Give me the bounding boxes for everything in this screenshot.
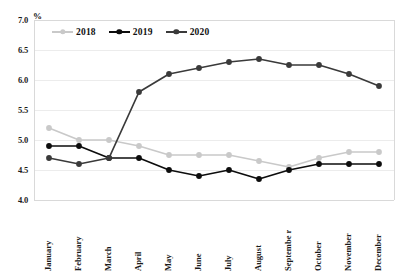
- data-point: [286, 167, 292, 173]
- legend-marker-icon: [60, 29, 65, 34]
- y-axis-tick-label: 4.0: [2, 195, 28, 205]
- y-axis-tick-label: 5.0: [2, 135, 28, 145]
- y-axis-tick-label: 6.5: [2, 45, 28, 55]
- x-axis-tick-label: December: [374, 205, 383, 271]
- legend-label: 2020: [190, 27, 210, 37]
- legend-item-2018[interactable]: 2018: [52, 27, 96, 37]
- data-point: [166, 167, 172, 173]
- legend-swatch-icon: [109, 31, 130, 33]
- data-point: [196, 152, 202, 158]
- legend-item-2019[interactable]: 2019: [109, 27, 153, 37]
- data-point: [46, 155, 52, 161]
- legend-label: 2018: [76, 27, 96, 37]
- x-axis-tick-label: February: [74, 205, 83, 271]
- legend-item-2020[interactable]: 2020: [166, 27, 210, 37]
- line-chart: % 7.06.56.05.55.04.54.0 JanuaryFebruaryM…: [0, 0, 406, 275]
- x-axis-tick-label: April: [134, 205, 143, 271]
- x-axis-tick-label: May: [164, 205, 173, 271]
- data-point: [256, 176, 262, 182]
- y-axis-tick-label: 4.5: [2, 165, 28, 175]
- data-point: [166, 152, 172, 158]
- x-axis-tick-label: March: [104, 205, 113, 271]
- data-point: [316, 62, 322, 68]
- x-axis-tick-label: July: [224, 205, 233, 271]
- data-point: [136, 89, 142, 95]
- data-point: [376, 149, 382, 155]
- x-axis-tick-label: Septembe r: [284, 205, 293, 271]
- data-point: [136, 143, 142, 149]
- x-axis-tick-label: October: [314, 205, 323, 271]
- data-point: [226, 59, 232, 65]
- data-point: [226, 152, 232, 158]
- chart-legend: 201820192020: [52, 27, 209, 37]
- data-point: [106, 137, 112, 143]
- data-point: [166, 71, 172, 77]
- data-point: [346, 149, 352, 155]
- data-point: [376, 161, 382, 167]
- data-point: [316, 161, 322, 167]
- data-point: [196, 65, 202, 71]
- data-point: [46, 143, 52, 149]
- data-point: [376, 83, 382, 89]
- legend-swatch-icon: [166, 31, 187, 33]
- y-axis-tick-label: 5.5: [2, 105, 28, 115]
- y-axis-tick-label: 7.0: [2, 15, 28, 25]
- data-point: [196, 173, 202, 179]
- x-axis-tick-label: November: [344, 205, 353, 271]
- x-axis-tick-label: August: [254, 205, 263, 271]
- data-point: [256, 158, 262, 164]
- data-point: [346, 161, 352, 167]
- data-point: [346, 71, 352, 77]
- data-point: [286, 62, 292, 68]
- legend-label: 2019: [133, 27, 153, 37]
- data-point: [226, 167, 232, 173]
- legend-marker-icon: [173, 29, 178, 34]
- data-point: [46, 125, 52, 131]
- data-point: [136, 155, 142, 161]
- data-point: [316, 155, 322, 161]
- x-axis-tick-label: June: [194, 205, 203, 271]
- legend-swatch-icon: [52, 31, 73, 33]
- y-axis-tick-label: 6.0: [2, 75, 28, 85]
- x-axis-tick-label: January: [44, 205, 53, 271]
- data-point: [106, 155, 112, 161]
- data-point: [76, 137, 82, 143]
- legend-marker-icon: [117, 29, 122, 34]
- data-point: [256, 56, 262, 62]
- data-point: [76, 161, 82, 167]
- data-point: [76, 143, 82, 149]
